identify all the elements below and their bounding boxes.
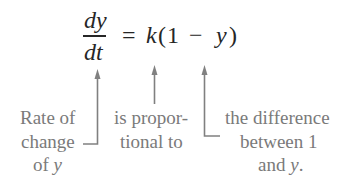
arrow-difference-icon xyxy=(205,72,221,136)
label-and-text: and xyxy=(258,154,290,175)
equation-diagram: dy dt = k ( 1 − y ) Rate of change of y … xyxy=(0,0,351,185)
label-period: . xyxy=(299,154,304,175)
label-rate-of-change-line-1: Rate of xyxy=(20,108,75,127)
label-y-variable: y xyxy=(290,154,298,175)
label-difference-line-3: and y. xyxy=(258,155,303,174)
label-proportional-line-2: tional to xyxy=(120,132,183,151)
label-proportional-line-1: is propor- xyxy=(114,108,188,127)
label-difference-line-2: between 1 xyxy=(240,132,318,151)
label-y-variable: y xyxy=(54,154,62,175)
label-rate-of-change-line-2: change xyxy=(21,132,75,151)
arrow-rate-of-change-icon xyxy=(83,76,98,144)
arrowhead-middle-icon xyxy=(152,65,158,75)
label-of-text: of xyxy=(33,154,54,175)
arrowhead-left-icon xyxy=(95,69,101,79)
label-rate-of-change-line-3: of y xyxy=(33,155,62,174)
arrowhead-right-icon xyxy=(202,65,208,75)
label-difference-line-1: the difference xyxy=(225,108,330,127)
